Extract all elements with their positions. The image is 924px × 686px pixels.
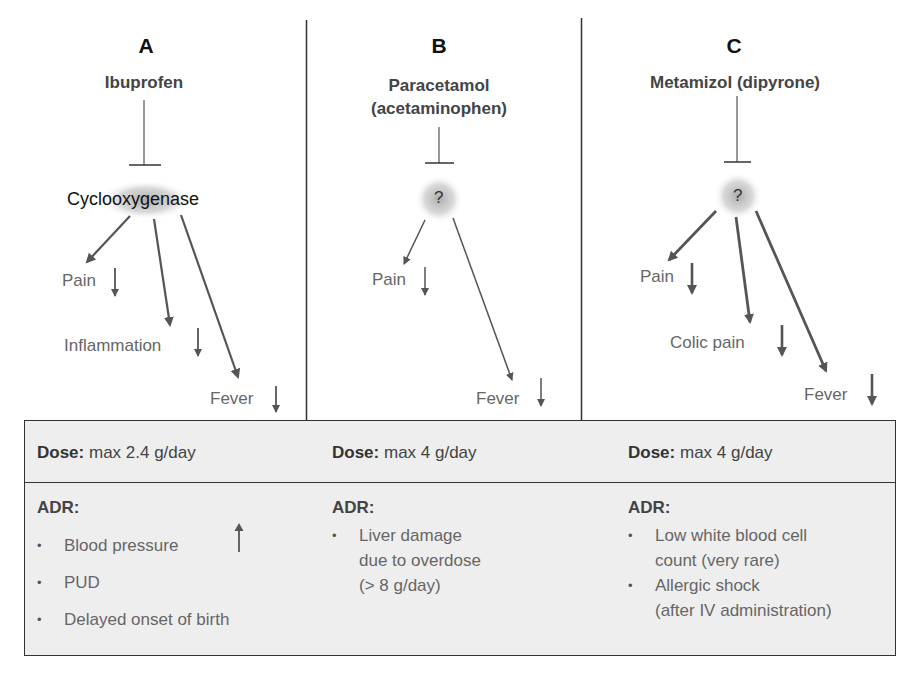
effect-a-inflammation: Inflammation bbox=[64, 336, 161, 356]
dose-c: Dose: max 4 g/day bbox=[628, 443, 773, 463]
effect-a-pain: Pain bbox=[62, 271, 96, 291]
panel-a-graphics bbox=[87, 100, 276, 412]
adr-list-c: Low white blood cell count (very rare) A… bbox=[628, 523, 832, 623]
target-unknown-c: ? bbox=[733, 186, 742, 206]
arrow-c-fever bbox=[756, 211, 826, 371]
panel-letter-b: B bbox=[419, 34, 459, 58]
target-unknown-b: ? bbox=[434, 188, 443, 208]
panel-b-graphics bbox=[404, 127, 541, 406]
dose-value-b: max 4 g/day bbox=[384, 443, 477, 462]
effect-b-pain: Pain bbox=[372, 270, 406, 290]
arrow-b-fever bbox=[453, 218, 512, 380]
arrow-a-fever bbox=[181, 215, 238, 377]
dose-value-a: max 2.4 g/day bbox=[89, 443, 196, 462]
effect-c-colic-pain: Colic pain bbox=[670, 333, 745, 353]
arrow-b-pain bbox=[404, 220, 425, 264]
adr-item: Blood pressure bbox=[37, 535, 229, 557]
target-label-cyclooxygenase: Cyclooxygenase bbox=[67, 189, 199, 210]
effect-c-fever: Fever bbox=[804, 385, 847, 405]
drug-name-ibuprofen: Ibuprofen bbox=[84, 72, 204, 94]
dose-value-c: max 4 g/day bbox=[680, 443, 773, 462]
adr-list-a: Blood pressure PUD Delayed onset of birt… bbox=[37, 535, 229, 647]
adr-item: PUD bbox=[37, 572, 229, 594]
arrow-a-pain bbox=[87, 216, 130, 262]
dose-label-b: Dose: bbox=[332, 443, 379, 462]
effect-b-fever: Fever bbox=[476, 389, 519, 409]
arrow-c-pain bbox=[669, 211, 716, 260]
dose-adr-table: Dose: max 2.4 g/day Dose: max 4 g/day Do… bbox=[24, 420, 896, 656]
drug-name-metamizol: Metamizol (dipyrone) bbox=[620, 72, 850, 94]
effect-a-fever: Fever bbox=[210, 389, 253, 409]
panel-letter-c: C bbox=[714, 34, 754, 58]
table-row-divider bbox=[25, 482, 895, 483]
arrow-c-colic bbox=[736, 217, 750, 322]
adr-item: Delayed onset of birth bbox=[37, 609, 229, 631]
drug-name-paracetamol: Paracetamol bbox=[344, 75, 534, 97]
panel-letter-a: A bbox=[126, 34, 166, 58]
adr-title-a: ADR: bbox=[37, 498, 80, 518]
dose-label-a: Dose: bbox=[37, 443, 84, 462]
panel-c-graphics bbox=[669, 96, 872, 404]
adr-list-b: Liver damage due to overdose (> 8 g/day) bbox=[332, 523, 481, 598]
up-arrow-icon bbox=[233, 523, 245, 553]
adr-title-c: ADR: bbox=[628, 498, 671, 518]
drug-name-paracetamol-alt: (acetaminophen) bbox=[344, 98, 534, 120]
arrow-a-inflammation bbox=[154, 219, 170, 325]
dose-label-c: Dose: bbox=[628, 443, 675, 462]
adr-item: Allergic shock (after IV administration) bbox=[628, 573, 832, 623]
dose-a: Dose: max 2.4 g/day bbox=[37, 443, 196, 463]
adr-item: Liver damage due to overdose (> 8 g/day) bbox=[332, 523, 481, 598]
adr-title-b: ADR: bbox=[332, 498, 375, 518]
dose-b: Dose: max 4 g/day bbox=[332, 443, 477, 463]
adr-item: Low white blood cell count (very rare) bbox=[628, 523, 832, 573]
effect-c-pain: Pain bbox=[640, 267, 674, 287]
